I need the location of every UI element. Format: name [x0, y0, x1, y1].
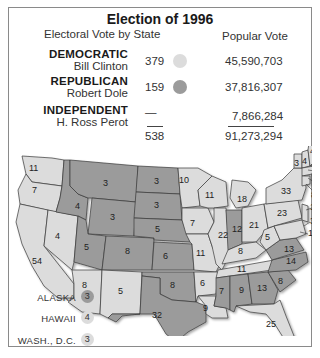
electoral-votes-republican: 159 [145, 81, 164, 93]
svg-text:5: 5 [84, 242, 89, 252]
candidate-name: H. Ross Perot [43, 116, 128, 128]
candidate-name: Bill Clinton [49, 60, 128, 72]
electoral-total-rule [147, 126, 163, 127]
svg-text:5: 5 [155, 224, 160, 234]
svg-text:33: 33 [281, 186, 291, 196]
popular-vote-total: 91,273,294 [225, 130, 283, 142]
svg-text:54: 54 [32, 256, 42, 266]
svg-text:5: 5 [118, 286, 123, 296]
state-iowa [182, 208, 214, 234]
dc-vote-badge: 3 [81, 333, 94, 346]
svg-text:8: 8 [238, 246, 243, 256]
inset-label: HAWAII [18, 313, 76, 324]
svg-text:8: 8 [125, 246, 130, 256]
popular-vote-republican: 37,816,307 [225, 81, 283, 93]
svg-text:6: 6 [163, 251, 168, 261]
state-connecticut [302, 176, 310, 186]
svg-text:9: 9 [203, 303, 208, 313]
state-kansas [152, 242, 194, 270]
popular-vote-democratic: 45,590,703 [225, 55, 283, 67]
party-name: REPUBLICAN [51, 75, 128, 87]
electoral-vote-header: Electoral Vote by State [44, 28, 160, 40]
alaska-vote-badge: 3 [81, 290, 94, 303]
svg-text:4: 4 [302, 156, 307, 166]
svg-text:25: 25 [266, 319, 276, 329]
svg-text:14: 14 [286, 256, 296, 266]
svg-text:8: 8 [278, 276, 283, 286]
svg-text:3: 3 [154, 200, 159, 210]
inset-label: WASH., D.C. [14, 335, 76, 346]
svg-text:21: 21 [249, 220, 259, 230]
svg-text:3: 3 [310, 216, 312, 226]
hawaii-vote-badge: 4 [81, 311, 94, 324]
state-florida [236, 300, 294, 336]
svg-text:11: 11 [237, 264, 246, 274]
svg-text:3: 3 [154, 176, 159, 186]
svg-text:7: 7 [32, 185, 37, 195]
svg-text:32: 32 [152, 310, 162, 320]
svg-text:4: 4 [310, 146, 312, 156]
svg-text:11: 11 [205, 190, 214, 200]
legend-democratic: DEMOCRATIC Bill Clinton [49, 48, 128, 72]
legend-independent: INDEPENDENT H. Ross Perot [43, 104, 128, 128]
svg-text:8: 8 [170, 280, 175, 290]
svg-text:22: 22 [218, 230, 228, 240]
state-massachusetts [302, 166, 312, 176]
party-name: DEMOCRATIC [49, 48, 128, 60]
svg-text:23: 23 [277, 208, 287, 218]
svg-text:6: 6 [200, 278, 205, 288]
electoral-votes-total: 538 [145, 130, 164, 142]
svg-text:10: 10 [308, 228, 312, 238]
inset-label: ALASKA [18, 292, 76, 303]
svg-text:8: 8 [82, 280, 87, 290]
svg-text:3: 3 [103, 178, 108, 188]
svg-text:13: 13 [284, 244, 294, 254]
svg-text:13: 13 [257, 283, 267, 293]
state-new-jersey [302, 204, 308, 222]
svg-text:10: 10 [179, 175, 189, 185]
svg-text:18: 18 [237, 194, 247, 204]
svg-text:7: 7 [219, 286, 224, 296]
us-electoral-map: 11 7 54 4 4 3 3 5 8 8 5 3 3 5 6 8 32 10 … [12, 146, 312, 336]
electoral-votes-independent: — [145, 106, 157, 118]
svg-text:3: 3 [110, 212, 115, 222]
svg-text:4: 4 [55, 231, 60, 241]
svg-text:3: 3 [294, 158, 299, 168]
legend-republican: REPUBLICAN Robert Dole [51, 75, 128, 99]
republican-color-swatch [173, 80, 187, 94]
svg-text:7: 7 [190, 218, 195, 228]
svg-text:15: 15 [310, 202, 312, 212]
svg-text:11: 11 [196, 248, 205, 258]
popular-vote-independent: 7,866,284 [232, 110, 283, 122]
svg-text:5: 5 [265, 232, 270, 242]
democratic-color-swatch [173, 54, 187, 68]
popular-total-rule [228, 126, 274, 127]
candidate-name: Robert Dole [51, 87, 128, 99]
svg-text:11: 11 [29, 163, 38, 173]
svg-text:8: 8 [311, 190, 312, 200]
svg-text:4: 4 [75, 201, 80, 211]
svg-text:9: 9 [239, 285, 244, 295]
page-title: Election of 1996 [0, 11, 320, 27]
electoral-votes-democratic: 379 [145, 55, 164, 67]
party-name: INDEPENDENT [43, 104, 128, 116]
popular-vote-header: Popular Vote [222, 30, 288, 42]
svg-text:12: 12 [232, 224, 242, 234]
